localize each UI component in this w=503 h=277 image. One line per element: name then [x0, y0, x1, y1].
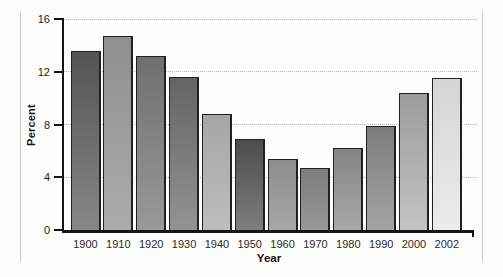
bar-1970 — [300, 168, 330, 230]
bar-1980 — [333, 148, 363, 230]
bar-1950 — [235, 139, 265, 230]
bar-1940 — [202, 114, 232, 230]
y-tick-label-4: 4 — [23, 170, 50, 184]
x-axis-end-tick — [472, 230, 474, 237]
bar-1920 — [136, 56, 166, 230]
bar-1990 — [366, 126, 396, 230]
y-tick-label-8: 8 — [23, 118, 50, 132]
x-axis-title: Year — [237, 252, 301, 264]
bar-1960 — [268, 159, 298, 230]
y-tick-label-12: 12 — [23, 65, 50, 79]
bar-2000 — [399, 93, 429, 230]
x-axis-line — [62, 230, 474, 233]
y-tick-label-16: 16 — [23, 12, 50, 26]
y-axis-line — [62, 19, 64, 233]
gridline-16 — [64, 19, 477, 20]
bar-1900 — [71, 51, 101, 230]
bar-2002 — [432, 78, 462, 230]
bar-1930 — [169, 77, 199, 230]
x-tick-label-2002: 2002 — [427, 237, 467, 251]
y-tick-label-0: 0 — [23, 223, 50, 237]
bar-1910 — [103, 36, 133, 230]
bar-chart: Percent 04812161900191019201930194019501… — [0, 0, 503, 277]
